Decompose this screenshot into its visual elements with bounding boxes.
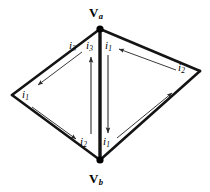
- node-label-vb-subscript: b: [99, 177, 103, 187]
- current-label-center-down: i1: [105, 40, 112, 53]
- node-dot-va: [96, 25, 103, 32]
- node-label-va-symbol: V: [89, 5, 98, 20]
- node-label-va: Va: [89, 6, 103, 21]
- edge-right-vb: [100, 71, 200, 160]
- current-label-center-up-subscript: 3: [89, 44, 93, 53]
- node-dot-vb: [96, 156, 103, 163]
- current-label-lower-left-subscript: 2: [83, 140, 87, 149]
- current-label-lower-right-subscript: 1: [106, 140, 110, 149]
- current-label-lower-right: i1: [103, 136, 110, 149]
- current-arrow-lower-left: [32, 107, 76, 139]
- node-label-vb: Vb: [89, 172, 103, 187]
- graph-svg: [0, 0, 210, 192]
- current-label-right-vertex: i2: [178, 62, 185, 75]
- node-label-vb-symbol: V: [89, 171, 98, 186]
- current-label-lower-left: i2: [80, 136, 87, 149]
- current-label-center-up: i3: [86, 40, 93, 53]
- current-arrow-upper-right: [119, 49, 176, 70]
- current-label-upper-left-subscript: 3: [72, 44, 76, 53]
- current-arrow-lower-right: [117, 93, 172, 138]
- current-arrow-upper-left: [38, 52, 82, 85]
- edge-left-vb: [12, 95, 100, 160]
- current-label-left-vertex-subscript: 1: [25, 93, 29, 102]
- edge-va-right: [100, 29, 200, 71]
- current-label-center-down-subscript: 1: [108, 44, 112, 53]
- current-label-right-vertex-subscript: 2: [181, 66, 185, 75]
- node-label-va-subscript: a: [99, 11, 103, 21]
- diagram-canvas: Va Vb i3 i3 i1 i1 i2 i2 i1: [0, 0, 210, 192]
- current-label-upper-left: i3: [69, 40, 76, 53]
- current-label-left-vertex: i1: [22, 89, 29, 102]
